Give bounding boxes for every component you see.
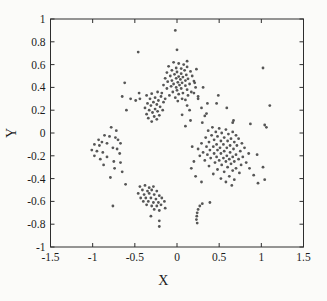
scatter-point (112, 146, 115, 149)
y-tick-label: -0.8 (27, 218, 45, 230)
scatter-point (230, 184, 233, 187)
scatter-point (230, 162, 233, 165)
scatter-point (184, 125, 187, 128)
scatter-point (231, 131, 234, 134)
scatter-point (115, 129, 118, 132)
scatter-point (153, 115, 156, 118)
scatter-point (201, 202, 204, 205)
scatter-point (182, 76, 185, 79)
scatter-point (175, 67, 178, 70)
scatter-point (205, 112, 208, 115)
scatter-point (145, 203, 148, 206)
scatter-point (265, 126, 268, 129)
scatter-point (223, 150, 226, 153)
scatter-point (101, 141, 104, 144)
scatter-point (139, 97, 142, 100)
scatter-point (145, 113, 148, 116)
scatter-point (148, 192, 151, 195)
scatter-point (102, 164, 105, 167)
scatter-point (187, 94, 190, 97)
scatter-point (225, 146, 228, 149)
scatter-point (239, 150, 242, 153)
scatter-point (215, 102, 218, 105)
scatter-point (184, 79, 187, 82)
scatter-point (248, 167, 251, 170)
scatter-point (171, 69, 174, 72)
scatter-point (232, 148, 235, 151)
scatter-point (170, 85, 173, 88)
scatter-point (153, 193, 156, 196)
scatter-point (202, 151, 205, 154)
scatter-point (177, 75, 180, 78)
scatter-point (214, 131, 217, 134)
y-tick-label: 1 (40, 13, 46, 25)
scatter-point (184, 99, 187, 102)
scatter-point (167, 65, 170, 68)
scatter-point (201, 121, 204, 124)
scatter-point (217, 94, 220, 97)
scatter-point (187, 77, 190, 80)
scatter-point (93, 143, 96, 146)
scatter-point (108, 135, 111, 138)
scatter-point (158, 225, 161, 228)
scatter-point (158, 194, 161, 197)
scatter-point (249, 123, 252, 126)
scatter-point (202, 86, 205, 89)
scatter-point (194, 175, 197, 178)
scatter-point (197, 148, 200, 151)
scatter-point (223, 170, 226, 173)
scatter-point (206, 153, 209, 156)
scatter-point (228, 158, 231, 161)
scatter-point (186, 104, 189, 107)
scatter-point (180, 67, 183, 70)
scatter-point (177, 93, 180, 96)
scatter-point (166, 87, 169, 90)
scatter-point (141, 189, 144, 192)
scatter-point (233, 141, 236, 144)
scatter-point (150, 120, 153, 123)
scatter-point (168, 94, 171, 97)
scatter-point (156, 91, 159, 94)
scatter-point (172, 61, 175, 64)
scatter-point (154, 108, 157, 111)
scatter-point (103, 134, 106, 137)
scatter-point (139, 197, 142, 200)
scatter-point (203, 115, 206, 118)
scatter-point (149, 97, 152, 100)
scatter-point (114, 136, 117, 139)
scatter-point (176, 100, 179, 103)
scatter-point (191, 145, 194, 148)
scatter-point (160, 92, 163, 95)
scatter-point (147, 117, 150, 120)
scatter-point (176, 48, 179, 51)
x-tick-label: -0.5 (126, 251, 144, 263)
scatter-point (235, 167, 238, 170)
scatter-point (209, 149, 212, 152)
scatter-point (219, 146, 222, 149)
scatter-point (146, 102, 149, 105)
scatter-point (157, 99, 160, 102)
scatter-point (220, 164, 223, 167)
x-tick-label: 1 (258, 251, 264, 263)
scatter-point (150, 197, 153, 200)
scatter-point (178, 84, 181, 87)
scatter-point (125, 109, 128, 112)
scatter-point (106, 156, 109, 159)
scatter-point (190, 167, 193, 170)
scatter-point (215, 156, 218, 159)
scatter-point (176, 89, 179, 92)
plot-frame (51, 19, 304, 247)
scatter-point (268, 104, 271, 107)
scatter-point (174, 29, 177, 32)
scatter-point (171, 91, 174, 94)
scatter-point (194, 86, 197, 89)
scatter-point (137, 192, 140, 195)
scatter-point (151, 111, 154, 114)
scatter-point (150, 104, 153, 107)
scatter-point (193, 81, 196, 84)
scatter-point (228, 175, 231, 178)
scatter-point (169, 75, 172, 78)
x-tick-label: -1 (88, 251, 98, 263)
scatter-point (150, 92, 153, 95)
scatter-point (161, 109, 164, 112)
